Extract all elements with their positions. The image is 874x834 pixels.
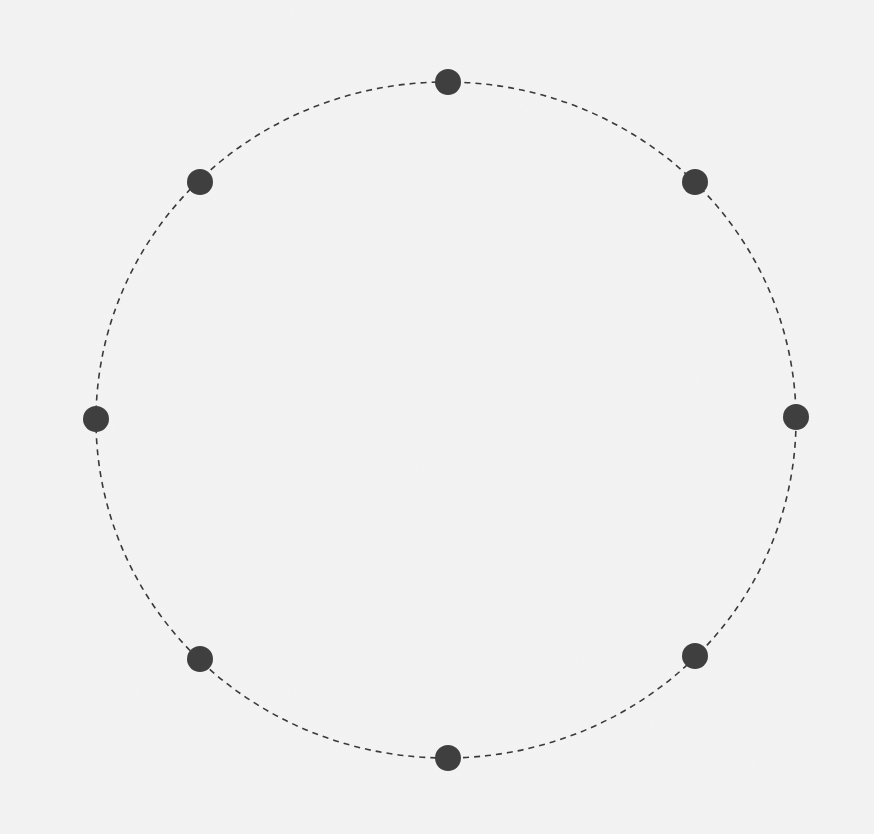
node-top — [435, 69, 461, 95]
ring-diagram — [0, 0, 874, 834]
background — [0, 0, 874, 834]
node-left — [83, 406, 109, 432]
node-top-right — [682, 169, 708, 195]
node-right — [783, 404, 809, 430]
node-bottom — [435, 745, 461, 771]
node-bottom-right — [682, 643, 708, 669]
node-bottom-left — [187, 646, 213, 672]
node-top-left — [187, 169, 213, 195]
diagram-canvas — [0, 0, 874, 834]
